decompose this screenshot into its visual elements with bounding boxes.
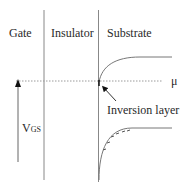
charge-marks — [103, 130, 130, 150]
valence-band-curve — [99, 128, 172, 180]
vgs-arrowhead-icon — [15, 79, 21, 87]
voltage-label-subscript: GS — [31, 125, 41, 134]
region-label-substrate: Substrate — [107, 27, 152, 39]
voltage-label: VGS — [22, 122, 41, 134]
region-label-gate: Gate — [9, 27, 32, 39]
region-label-insulator: Insulator — [51, 27, 94, 39]
voltage-label-main: V — [22, 121, 31, 135]
inversion-layer-label: Inversion layer — [107, 104, 179, 116]
fermi-level-label: μ — [171, 75, 177, 87]
inversion-arrow-icon — [104, 88, 116, 101]
conduction-band-curve — [99, 57, 172, 82]
